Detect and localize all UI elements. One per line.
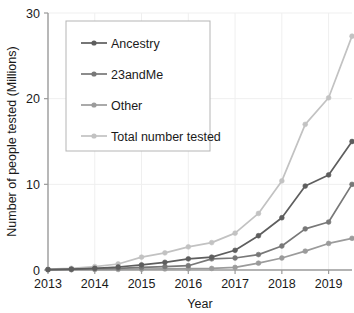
data-point-marker: [163, 250, 168, 255]
chart-legend: Ancestry23andMeOtherTotal number tested: [66, 21, 221, 151]
y-tick-label: 0: [33, 264, 40, 278]
data-point-marker: [209, 266, 214, 271]
x-tick-label: 2013: [34, 277, 62, 291]
chart-canvas: 01020302013201420152016201720182019YearN…: [0, 0, 354, 313]
data-point-marker: [92, 266, 97, 271]
data-point-marker: [326, 173, 331, 178]
data-point-marker: [69, 267, 74, 272]
data-point-marker: [256, 252, 261, 257]
data-point-marker: [256, 261, 261, 266]
legend-swatch-marker: [91, 71, 96, 76]
data-point-marker: [279, 215, 284, 220]
data-point-marker: [303, 249, 308, 254]
legend-item-label: Total number tested: [111, 130, 221, 144]
data-point-marker: [256, 211, 261, 216]
legend-swatch-marker: [91, 133, 96, 138]
data-point-marker: [326, 220, 331, 225]
data-point-marker: [279, 256, 284, 261]
data-point-marker: [139, 255, 144, 260]
data-point-marker: [303, 184, 308, 189]
data-point-marker: [326, 95, 331, 100]
data-point-marker: [279, 179, 284, 184]
legend-item-label: Other: [111, 99, 142, 113]
y-axis-title: Number of people tested (Millions): [5, 46, 19, 236]
data-point-marker: [233, 265, 238, 270]
data-point-marker: [209, 240, 214, 245]
x-tick-label: 2018: [268, 277, 296, 291]
legend-item-label: 23andMe: [111, 68, 163, 82]
x-tick-label: 2015: [128, 277, 156, 291]
data-point-marker: [186, 256, 191, 261]
data-point-marker: [256, 233, 261, 238]
x-tick-label: 2014: [81, 277, 109, 291]
data-point-marker: [279, 244, 284, 249]
x-tick-label: 2019: [315, 277, 343, 291]
data-point-marker: [116, 265, 121, 270]
line-chart: 01020302013201420152016201720182019YearN…: [0, 0, 354, 313]
data-point-marker: [303, 122, 308, 127]
data-point-marker: [186, 244, 191, 249]
y-tick-label: 30: [26, 7, 40, 21]
data-point-marker: [233, 256, 238, 261]
data-point-marker: [350, 139, 354, 144]
data-point-marker: [233, 248, 238, 253]
data-point-marker: [350, 182, 354, 187]
legend-swatch-marker: [91, 102, 96, 107]
legend-item-label: Ancestry: [111, 37, 160, 51]
y-tick-label: 20: [26, 92, 40, 106]
x-axis-title: Year: [187, 297, 212, 311]
data-point-marker: [209, 255, 214, 260]
legend-swatch-marker: [91, 40, 96, 45]
data-point-marker: [303, 226, 308, 231]
data-point-marker: [233, 231, 238, 236]
data-point-marker: [186, 263, 191, 268]
data-point-marker: [326, 241, 331, 246]
data-point-marker: [46, 267, 51, 272]
data-point-marker: [350, 34, 354, 39]
x-tick-label: 2017: [221, 277, 249, 291]
data-point-marker: [139, 262, 144, 267]
data-point-marker: [350, 236, 354, 241]
y-tick-label: 10: [26, 178, 40, 192]
x-tick-label: 2016: [174, 277, 202, 291]
data-point-marker: [163, 260, 168, 265]
